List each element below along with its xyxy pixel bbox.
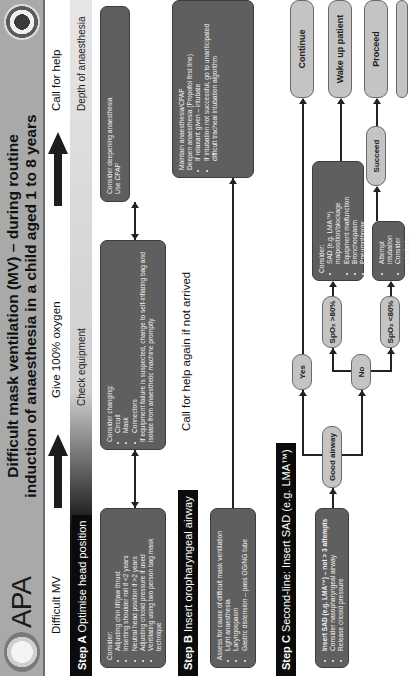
list-item: Bronchospasm bbox=[351, 169, 359, 264]
spo2-low-node: SpO₂ <80% bbox=[380, 296, 400, 348]
arrowhead-icon bbox=[373, 98, 381, 104]
list-item: Light anaesthesia bbox=[224, 516, 232, 651]
list-item: Pneumothorax bbox=[359, 169, 367, 264]
box-line: Deepen anaesthesia (Propofol first line) bbox=[186, 8, 194, 170]
box-intro: Consider: bbox=[318, 169, 326, 273]
no-node: No bbox=[351, 354, 371, 390]
depth-of-anaesthesia-label: Depth of anaesthesia bbox=[76, 16, 87, 111]
spo2-high-node: SpO₂ >80% bbox=[322, 296, 342, 348]
society-seal-icon bbox=[4, 4, 40, 40]
call-again-label: Call for help again if not arrived bbox=[180, 272, 192, 431]
check-equipment-label: Check equipment bbox=[76, 328, 87, 406]
arrowhead-icon bbox=[229, 178, 237, 184]
partial-outcome-box bbox=[396, 0, 408, 98]
list-item: Gastric distension – pass OG/NG tube bbox=[241, 516, 249, 651]
box-line: Use CPAP bbox=[114, 14, 122, 194]
arrowhead-icon bbox=[373, 186, 381, 192]
succeed-node: Succeed bbox=[366, 126, 386, 186]
proceed-outcome: Proceed bbox=[364, 0, 388, 98]
yes-node: Yes bbox=[292, 354, 312, 390]
arrowhead-icon bbox=[131, 234, 139, 240]
arrowhead-icon bbox=[358, 390, 366, 396]
step-c-label: Step C Second-line: Insert SAD (e.g. LMA… bbox=[276, 443, 296, 676]
list-item: Insert SAD (e.g. LMA™) – not > 3 attempt… bbox=[321, 516, 329, 651]
list-item: If intubation not successful, go to unan… bbox=[203, 8, 219, 161]
deepen-anaesthesia-box: Consider deepening anaesthesia Use CPAP bbox=[100, 6, 130, 202]
step-a-title: Optimise head position bbox=[76, 521, 88, 636]
box-intro: Consider changing: bbox=[106, 248, 114, 442]
list-item: Adjusting chin lift/jaw thrust bbox=[114, 516, 122, 651]
box-line: Maintain anaesthesia/CPAP bbox=[178, 8, 186, 170]
arrowhead-icon bbox=[329, 348, 337, 354]
list-item: Inserting shoulder roll if <2 years bbox=[122, 516, 130, 651]
list-item: Consider nasopharyngeal airway bbox=[329, 516, 337, 651]
difficult-mv-label: Difficult MV bbox=[50, 576, 62, 634]
list-item: Circuit bbox=[114, 248, 122, 433]
connector-line bbox=[232, 178, 234, 508]
call-for-help-label: Call for help bbox=[50, 50, 62, 111]
list-item: Neutral head position if >2 years bbox=[131, 516, 139, 651]
check-equipment-box: Consider changing: Circuit Mask Connecto… bbox=[100, 240, 166, 450]
box-intro: Consider: bbox=[106, 516, 114, 660]
box-intro: Assess for cause of difficult mask venti… bbox=[216, 516, 224, 660]
connector-line bbox=[342, 455, 362, 457]
arrowhead-icon bbox=[299, 390, 307, 396]
connector-line bbox=[376, 189, 378, 221]
arrowhead-icon bbox=[337, 98, 345, 104]
connector-line bbox=[340, 99, 342, 161]
connector-line bbox=[302, 388, 304, 456]
arrowhead-icon bbox=[131, 202, 139, 208]
list-item: Mask bbox=[122, 248, 130, 433]
list-item: Equipment malfunction bbox=[343, 169, 351, 264]
consider-causes-box: Consider: SAD (e.g. LMA™) malposition/bl… bbox=[312, 161, 364, 281]
connector-line bbox=[302, 99, 304, 354]
connector-line bbox=[371, 371, 391, 373]
page-title: Difficult mask ventilation (MV) – during… bbox=[4, 86, 40, 526]
arrowhead-icon bbox=[329, 488, 337, 494]
wake-up-patient-outcome: Wake up patient bbox=[328, 0, 352, 98]
arrowhead-icon bbox=[387, 281, 395, 287]
step-c-id: Step C bbox=[280, 635, 292, 670]
apa-child-logo-icon bbox=[4, 632, 40, 672]
connector-line bbox=[332, 371, 351, 373]
maintain-anaesthesia-box: Maintain anaesthesia/CPAP Deepen anaesth… bbox=[172, 0, 254, 178]
connector-line bbox=[134, 450, 136, 508]
list-item: Adjusting cricoid pressure if used bbox=[139, 516, 147, 651]
step-c-title: Second-line: Insert SAD (e.g. LMA™) bbox=[280, 449, 292, 635]
box-outro: If equipment failure is suspected, chang… bbox=[139, 248, 155, 442]
insert-sad-box: Insert SAD (e.g. LMA™) – not > 3 attempt… bbox=[315, 508, 349, 668]
list-item: SAD (e.g. LMA™) malposition/blockage bbox=[326, 169, 342, 264]
arrowhead-icon bbox=[131, 502, 139, 508]
give-oxygen-label: Give 100% oxygen bbox=[50, 301, 62, 398]
header-banner: APA Difficult mask ventilation (MV) – du… bbox=[0, 0, 45, 676]
list-item: Laryngospasm bbox=[232, 516, 240, 651]
step-a-id: Step A bbox=[76, 636, 88, 670]
list-item: Consider paralysis bbox=[394, 229, 410, 264]
list-item: Attempt intubation bbox=[378, 229, 394, 264]
step-b-title: Insert oropharyngeal airway bbox=[182, 496, 194, 635]
box-line: Consider deepening anaesthesia bbox=[106, 14, 114, 194]
list-item: Ventilating using two person bag mask te… bbox=[147, 516, 163, 651]
right-arrow-icon bbox=[48, 434, 68, 508]
attempt-intubation-box: Attempt intubation Consider paralysis bbox=[372, 221, 405, 281]
head-position-box: Consider: Adjusting chin lift/jaw thrust… bbox=[100, 508, 166, 668]
title-line-2: induction of anaesthesia in a child aged… bbox=[22, 86, 40, 526]
step-b-label: Step B Insert oropharyngeal airway bbox=[178, 490, 198, 676]
right-arrow-icon bbox=[48, 132, 68, 206]
assess-cause-box: Assess for cause of difficult mask venti… bbox=[210, 508, 256, 668]
step-b-id: Step B bbox=[182, 635, 194, 670]
continue-outcome: Continue bbox=[290, 0, 314, 98]
good-airway-node: Good airway bbox=[322, 426, 342, 488]
connector-line bbox=[302, 455, 322, 457]
arrowhead-icon bbox=[131, 450, 139, 456]
list-item: Release cricoid pressure bbox=[337, 516, 345, 651]
connector-line bbox=[361, 388, 363, 456]
list-item: Connectors bbox=[131, 248, 139, 433]
arrowhead-icon bbox=[387, 348, 395, 354]
list-item: If relaxant given – intubate bbox=[194, 8, 202, 161]
arrowhead-icon bbox=[329, 281, 337, 287]
title-line-1: Difficult mask ventilation (MV) – during… bbox=[4, 86, 22, 526]
brand-name: APA bbox=[6, 577, 38, 628]
step-a-label: Step A Optimise head position bbox=[72, 515, 92, 676]
